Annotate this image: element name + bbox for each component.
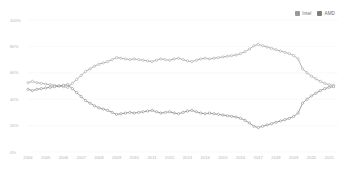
y-tick-label: 100% (10, 18, 21, 23)
data-point-intel (306, 72, 308, 74)
data-point-intel (115, 56, 117, 58)
x-tick-label: 2019 (289, 155, 299, 160)
data-point-intel (217, 56, 219, 58)
data-point-intel (27, 82, 29, 84)
data-point-amd (284, 119, 286, 121)
data-point-amd (102, 108, 104, 110)
data-point-intel (266, 46, 268, 48)
data-point-intel (293, 54, 295, 56)
data-point-amd (146, 110, 148, 112)
data-point-amd (204, 113, 206, 115)
data-point-intel (169, 59, 171, 61)
data-point-amd (319, 89, 321, 91)
data-point-amd (328, 86, 330, 88)
x-tick-label: 2011 (147, 155, 157, 160)
x-tick-label: 2005 (41, 155, 51, 160)
data-point-amd (124, 112, 126, 114)
data-point-intel (288, 53, 290, 55)
data-point-intel (226, 55, 228, 57)
data-point-amd (222, 114, 224, 116)
data-point-amd (195, 111, 197, 113)
x-tick-label: 2010 (130, 155, 140, 160)
data-point-amd (239, 117, 241, 119)
data-point-amd (200, 112, 202, 114)
data-point-amd (186, 110, 188, 112)
x-tick-label: 2015 (218, 155, 228, 160)
data-point-amd (270, 122, 272, 124)
x-tick-label: 2007 (76, 155, 86, 160)
data-point-intel (204, 57, 206, 59)
data-point-intel (257, 43, 259, 45)
x-tick-label: 2014 (200, 155, 210, 160)
x-axis-ticks: 2004200520062007200820092010201120122013… (23, 155, 334, 160)
data-point-amd (164, 111, 166, 113)
data-point-amd (27, 88, 29, 90)
data-point-intel (31, 80, 33, 82)
x-tick-label: 2008 (94, 155, 104, 160)
data-point-intel (111, 58, 113, 60)
data-point-intel (84, 70, 86, 72)
x-tick-label: 2013 (183, 155, 193, 160)
data-point-intel (319, 80, 321, 82)
data-point-amd (36, 88, 38, 90)
data-point-amd (151, 109, 153, 111)
data-series (27, 43, 335, 128)
data-point-amd (111, 111, 113, 113)
data-point-intel (133, 58, 135, 60)
data-point-amd (315, 92, 317, 94)
y-tick-label: 60% (10, 70, 19, 75)
data-point-intel (142, 59, 144, 61)
data-point-amd (89, 102, 91, 104)
data-point-amd (173, 112, 175, 114)
data-point-amd (133, 112, 135, 114)
data-point-amd (49, 86, 51, 88)
data-point-amd (324, 87, 326, 89)
y-axis-ticks: 100%80%60%40%20%0% (10, 18, 21, 155)
x-tick-label: 2012 (165, 155, 175, 160)
data-point-intel (40, 82, 42, 84)
data-point-amd (182, 111, 184, 113)
gridlines (28, 20, 338, 152)
data-point-intel (182, 58, 184, 60)
data-point-amd (253, 125, 255, 127)
data-point-amd (155, 111, 157, 113)
data-point-intel (164, 58, 166, 60)
data-point-intel (213, 57, 215, 59)
data-point-intel (177, 57, 179, 59)
data-point-amd (213, 113, 215, 115)
data-point-amd (301, 102, 303, 104)
data-point-amd (244, 119, 246, 121)
data-point-amd (160, 112, 162, 114)
data-point-intel (262, 45, 264, 47)
data-point-intel (138, 58, 140, 60)
data-point-amd (62, 84, 64, 86)
data-point-amd (266, 124, 268, 126)
data-point-amd (138, 111, 140, 113)
x-tick-label: 2009 (112, 155, 122, 160)
data-point-intel (239, 53, 241, 55)
data-point-intel (270, 47, 272, 49)
x-tick-label: 2018 (271, 155, 281, 160)
data-point-intel (89, 68, 91, 70)
data-point-intel (124, 58, 126, 60)
data-point-intel (301, 68, 303, 70)
data-point-amd (120, 113, 122, 115)
data-point-amd (248, 122, 250, 124)
data-point-intel (49, 84, 51, 86)
data-point-intel (324, 82, 326, 84)
data-point-intel (208, 58, 210, 60)
data-point-amd (297, 112, 299, 114)
data-point-amd (98, 107, 100, 109)
data-point-amd (67, 84, 69, 86)
data-point-amd (71, 87, 73, 89)
data-point-amd (208, 112, 210, 114)
series-line-amd (28, 85, 334, 128)
data-point-intel (98, 63, 100, 65)
x-tick-label: 2004 (23, 155, 33, 160)
data-point-amd (58, 85, 60, 87)
data-point-intel (173, 58, 175, 60)
data-point-intel (195, 59, 197, 61)
x-tick-label: 2017 (254, 155, 264, 160)
data-point-amd (235, 116, 237, 118)
data-point-amd (288, 117, 290, 119)
